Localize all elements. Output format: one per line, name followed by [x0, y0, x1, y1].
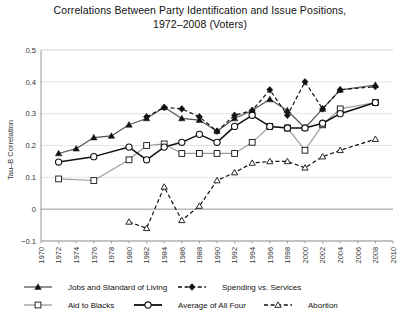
x-tick-label: 1990 [213, 247, 222, 263]
x-tick-label: 1982 [142, 247, 151, 263]
y-axis-label: Tau–B Correlation [6, 120, 15, 180]
chart-container: Correlations Between Party Identificatio… [0, 0, 400, 321]
x-tick-label: 1984 [160, 247, 169, 263]
data-point-marker [91, 178, 97, 184]
data-point-marker [126, 219, 132, 224]
x-tick-label: 2010 [389, 247, 398, 263]
data-point-marker [232, 169, 238, 174]
data-point-marker [179, 139, 185, 145]
y-tick-label: 0.4 [25, 78, 36, 87]
x-tick-label: 2006 [354, 247, 363, 263]
data-point-marker [267, 123, 273, 129]
x-tick-label: 1986 [178, 247, 187, 263]
y-tick-label: 0 [32, 205, 36, 214]
data-point-marker [161, 184, 167, 189]
data-point-marker [249, 160, 255, 165]
data-point-marker [214, 177, 220, 182]
y-tick-label: 0.2 [25, 141, 36, 150]
data-point-marker [337, 147, 343, 152]
x-tick-label: 1988 [195, 247, 204, 263]
legend-item-2[interactable]: Spending vs. Services [178, 283, 301, 292]
y-tick-label: 0.1 [25, 173, 36, 182]
legend-label: Jobs and Standard of Living [68, 283, 167, 292]
chart-title-line-2: 1972–2008 (Voters) [0, 17, 400, 31]
x-tick-label: 1994 [248, 247, 257, 263]
x-tick-label: 1998 [283, 247, 292, 263]
legend-item-5[interactable]: Abortion [264, 301, 338, 310]
legend-item-3[interactable]: Aid to Blacks [24, 301, 114, 310]
data-point-marker [284, 125, 290, 131]
chart-title-line-1: Correlations Between Party Identificatio… [0, 3, 400, 17]
x-tick-label: 1996 [266, 247, 275, 263]
data-point-marker [214, 151, 220, 157]
data-point-marker [179, 151, 185, 157]
data-point-marker [249, 112, 255, 118]
data-point-marker [249, 139, 255, 145]
data-point-marker [126, 157, 132, 163]
x-axis-ticks: 1970197219741976197819801982198419861988… [37, 241, 398, 263]
data-point-marker [372, 99, 378, 105]
legend-label: Aid to Blacks [68, 301, 114, 310]
data-point-marker [372, 136, 378, 141]
y-tick-label: 0.3 [25, 109, 36, 118]
x-tick-label: 1976 [90, 247, 99, 263]
x-tick-label: 1972 [54, 247, 63, 263]
y-tick-label: 0.5 [25, 46, 36, 55]
data-point-marker [56, 159, 62, 165]
x-tick-label: 1980 [125, 247, 134, 263]
data-point-marker [267, 96, 273, 102]
data-point-marker [232, 123, 238, 129]
x-tick-label: 2002 [318, 247, 327, 263]
data-point-marker [179, 217, 185, 222]
x-tick-label: 1974 [72, 247, 81, 263]
chart-legend: Jobs and Standard of LivingSpending vs. … [24, 283, 338, 310]
x-tick-label: 1978 [107, 247, 116, 263]
data-point-marker [232, 151, 238, 157]
data-point-marker [144, 143, 150, 149]
legend-item-4[interactable]: Average of All Four [134, 301, 246, 310]
x-tick-label: 2004 [336, 247, 345, 263]
data-point-marker [91, 154, 97, 160]
data-point-marker [161, 144, 167, 150]
legend-item-1[interactable]: Jobs and Standard of Living [24, 283, 167, 292]
x-tick-label: 1992 [230, 247, 239, 263]
x-tick-label: 2000 [301, 247, 310, 263]
data-point-marker [126, 144, 132, 150]
chart-plot: −0.100.10.20.30.40.5 1970197219741976197… [0, 0, 400, 321]
data-point-marker [320, 120, 326, 126]
legend-label: Spending vs. Services [222, 283, 301, 292]
y-tick-label: −0.1 [21, 237, 36, 246]
data-point-marker [196, 131, 202, 137]
data-point-marker [372, 83, 378, 90]
legend-label: Abortion [308, 301, 338, 310]
data-point-marker [189, 284, 195, 291]
chart-title: Correlations Between Party Identificatio… [0, 3, 400, 31]
x-tick-label: 2008 [371, 247, 380, 263]
data-point-marker [73, 145, 79, 151]
data-point-marker [337, 111, 343, 117]
data-point-marker [197, 151, 203, 157]
data-point-marker [145, 302, 151, 308]
legend-label: Average of All Four [178, 301, 246, 310]
data-point-marker [56, 176, 62, 182]
y-axis-ticks: −0.100.10.20.30.40.5 [21, 46, 36, 246]
data-point-marker [302, 125, 308, 131]
data-point-marker [302, 147, 308, 153]
data-point-marker [35, 302, 41, 308]
x-tick-label: 1970 [37, 247, 46, 263]
series-layer [55, 78, 378, 230]
data-point-marker [144, 157, 150, 163]
data-point-marker [214, 139, 220, 145]
data-point-marker [179, 105, 185, 112]
